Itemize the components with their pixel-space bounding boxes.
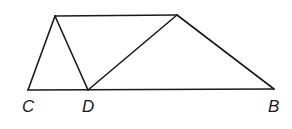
label-c: C (22, 97, 35, 116)
segment-de (88, 15, 177, 90)
geometry-diagram: C D B (0, 0, 292, 129)
segment-ac (28, 16, 55, 90)
segment-ad (55, 16, 88, 90)
label-d: D (82, 97, 94, 116)
segment-cb-base (28, 89, 274, 90)
label-b: B (268, 97, 279, 116)
segment-eb (177, 15, 274, 89)
segment-top (55, 15, 177, 16)
